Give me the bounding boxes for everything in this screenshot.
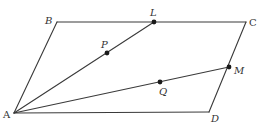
label-b: B (44, 15, 52, 26)
point-p (105, 51, 110, 56)
parallelogram-diagram: A B C D L P M Q (0, 0, 267, 130)
label-l: L (149, 7, 157, 18)
point-l (152, 20, 157, 25)
label-a: A (2, 109, 11, 120)
segment-am (14, 67, 229, 113)
label-q: Q (159, 86, 167, 97)
label-d: D (210, 113, 219, 124)
label-c: C (249, 17, 257, 28)
side-da (14, 112, 209, 113)
point-q (158, 80, 163, 85)
point-m (227, 65, 232, 70)
label-m: M (233, 65, 245, 76)
label-p: P (100, 39, 108, 50)
